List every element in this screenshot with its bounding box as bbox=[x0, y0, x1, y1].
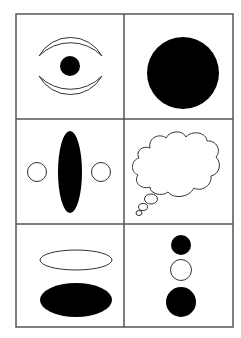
center-dot bbox=[60, 56, 80, 76]
thought-trail-bubble-1 bbox=[145, 194, 158, 204]
black-circle bbox=[147, 37, 219, 109]
thought-trail-bubble-2 bbox=[139, 204, 148, 211]
lower-crescent bbox=[39, 76, 102, 95]
cell-6-circle-stack bbox=[166, 235, 196, 317]
left-outline-circle bbox=[28, 163, 47, 182]
cell-5-stacked-ellipses bbox=[40, 250, 112, 317]
black-ellipse bbox=[40, 283, 112, 317]
tall-black-ellipse bbox=[58, 131, 82, 213]
cell-1-eye-shape bbox=[39, 37, 102, 94]
outline-ellipse bbox=[40, 250, 112, 270]
large-black-circle bbox=[166, 287, 196, 317]
cloud-icon bbox=[132, 132, 219, 197]
right-outline-circle bbox=[92, 163, 111, 182]
small-black-circle bbox=[171, 235, 191, 255]
cell-2-large-circle bbox=[147, 37, 219, 109]
outline-circle bbox=[171, 260, 192, 281]
upper-crescent bbox=[39, 37, 102, 56]
thought-trail-bubble-3 bbox=[136, 211, 142, 216]
shape-grid-figure bbox=[0, 0, 241, 338]
cell-3-ellipse-with-circles bbox=[28, 131, 111, 213]
cell-4-thought-bubble bbox=[132, 132, 219, 216]
